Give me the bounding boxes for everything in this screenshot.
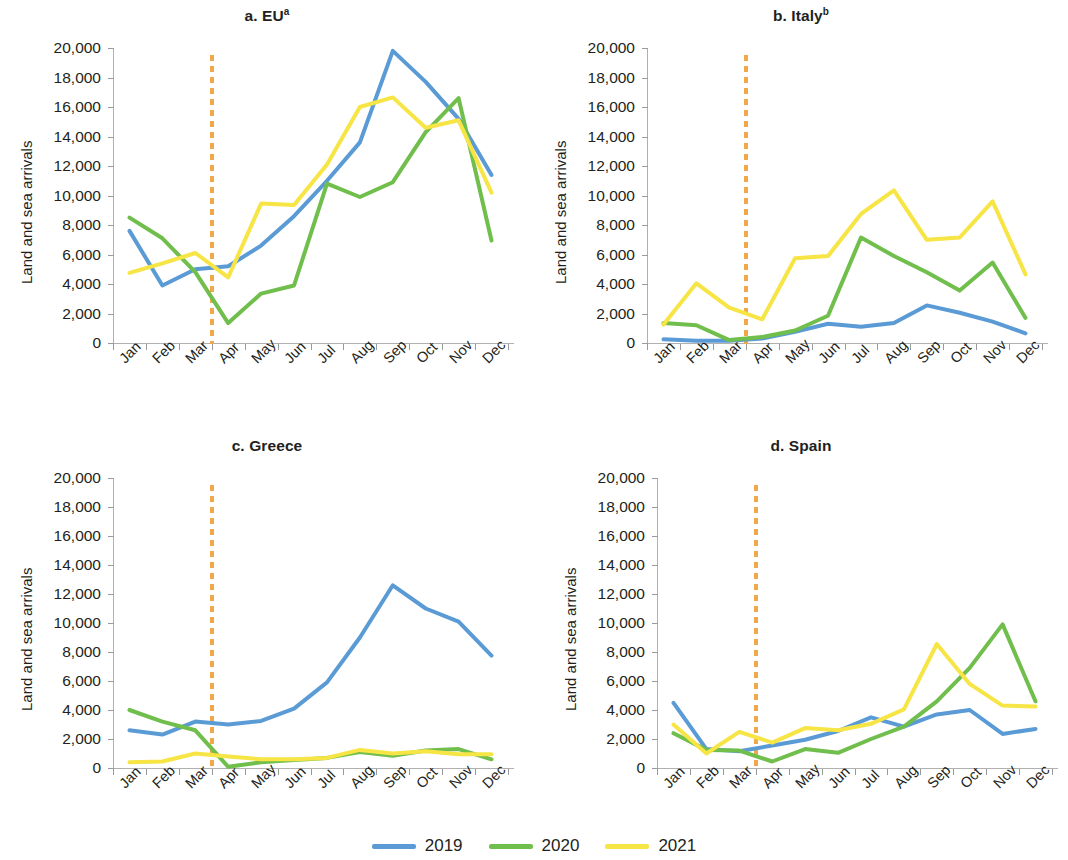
legend-label: 2019 <box>425 836 463 856</box>
chart-greece: 20,00018,00016,00014,00012,00010,0008,00… <box>0 430 534 830</box>
plot-area <box>0 430 534 860</box>
legend-item-2021[interactable]: 2021 <box>605 836 696 856</box>
plot-area <box>534 430 1068 860</box>
figure-legend: 201920202021 <box>0 832 1068 860</box>
legend-label: 2021 <box>658 836 696 856</box>
series-line-2019 <box>130 51 492 286</box>
legend-item-2019[interactable]: 2019 <box>372 836 463 856</box>
legend-label: 2020 <box>542 836 580 856</box>
figure-panel-grid: a. EUa 20,00018,00016,00014,00012,00010,… <box>0 0 1068 860</box>
legend-swatch-icon <box>605 844 649 849</box>
series-line-2020 <box>130 98 492 323</box>
legend-swatch-icon <box>489 844 533 849</box>
panel-greece: c. Greece 20,00018,00016,00014,00012,000… <box>0 430 534 830</box>
legend-item-2020[interactable]: 2020 <box>489 836 580 856</box>
panel-italy: b. Italyb 20,00018,00016,00014,00012,000… <box>534 0 1068 430</box>
chart-italy: 20,00018,00016,00014,00012,00010,0008,00… <box>534 0 1068 430</box>
chart-eu: 20,00018,00016,00014,00012,00010,0008,00… <box>0 0 534 430</box>
series-line-2019 <box>130 585 492 734</box>
legend-swatch-icon <box>372 844 416 849</box>
series-line-2021 <box>130 97 492 277</box>
chart-spain: 20,00018,00016,00014,00012,00010,0008,00… <box>534 430 1068 830</box>
panel-eu: a. EUa 20,00018,00016,00014,00012,00010,… <box>0 0 534 430</box>
plot-area <box>0 0 534 430</box>
plot-area <box>534 0 1068 430</box>
series-line-2021 <box>674 644 1036 754</box>
series-line-2021 <box>664 190 1026 324</box>
series-line-2021 <box>130 750 492 762</box>
panel-spain: d. Spain 20,00018,00016,00014,00012,0001… <box>534 430 1068 830</box>
